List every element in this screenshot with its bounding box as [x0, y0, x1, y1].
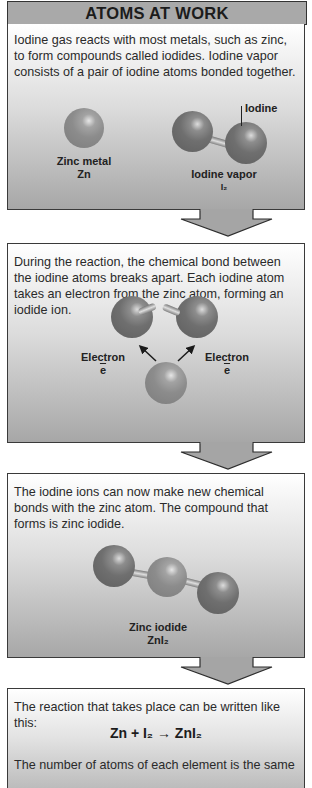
electron-left-name: Electron	[81, 351, 125, 363]
iodine-vapor-name: Iodine vapor	[191, 168, 256, 180]
zinc-metal-name: Zinc metal	[57, 155, 111, 167]
electron-right-label: Electron e	[192, 351, 262, 377]
down-arrow-icon	[0, 657, 312, 687]
panel-zinc-iodide: The iodine ions can now make new chemica…	[7, 473, 305, 658]
electron-right-name: Electron	[205, 351, 249, 363]
iodine-vapor-label: Iodine vapor I₂	[174, 168, 274, 194]
iodine-pointer-line	[241, 106, 242, 126]
iodine-pointer-label: Iodine	[245, 102, 277, 115]
zinc-iodide-formula: ZnI₂	[108, 634, 208, 647]
diagram-title: ATOMS AT WORK	[7, 1, 307, 25]
electron-left-symbol: e	[68, 364, 138, 377]
panel-iodine-vapor: Iodine gas reacts with most metals, such…	[7, 24, 305, 210]
electron-right-symbol: e	[192, 364, 262, 377]
iodine-atom-icon	[93, 545, 135, 587]
iodine-vapor-formula: I₂	[174, 181, 274, 194]
zinc-iodide-label: Zinc iodide ZnI₂	[108, 621, 208, 647]
down-arrow-icon	[0, 209, 312, 239]
zinc-atom-icon	[147, 557, 187, 597]
panel-4-text-2: The number of atoms of each element is t…	[14, 757, 298, 773]
panel-reaction-equation: The reaction that takes place can be wri…	[7, 688, 305, 788]
zinc-atom-icon	[64, 108, 104, 148]
zinc-iodide-name: Zinc iodide	[129, 621, 187, 633]
down-arrow-icon	[0, 442, 312, 472]
iodine-atom-icon	[225, 122, 267, 164]
electron-arrows-icon	[8, 244, 306, 444]
zinc-formula: Zn	[44, 168, 124, 181]
electron-left-label: Electron e	[68, 351, 138, 377]
panel-bond-breaks: During the reaction, the chemical bond b…	[7, 243, 305, 443]
panel-3-text: The iodine ions can now make new chemica…	[14, 484, 298, 532]
reaction-equation: Zn + I₂ → ZnI₂	[8, 725, 304, 741]
iodine-atom-icon	[172, 111, 213, 152]
panel-1-text: Iodine gas reacts with most metals, such…	[14, 32, 298, 80]
zinc-metal-label: Zinc metal Zn	[44, 155, 124, 181]
iodine-atom-icon	[197, 572, 239, 614]
